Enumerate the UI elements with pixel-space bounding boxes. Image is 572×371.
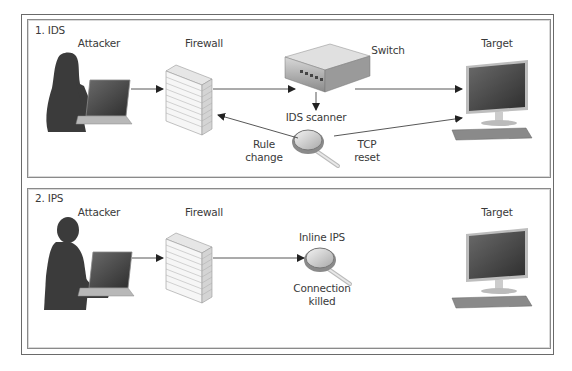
desktop-computer-icon — [452, 60, 532, 140]
inline-ips-label: Inline IPS — [299, 231, 345, 244]
diagram-graphics — [0, 0, 572, 371]
firewall-label: Firewall — [185, 37, 223, 50]
firewall-label: Firewall — [185, 206, 223, 219]
desktop-computer-icon — [452, 228, 532, 308]
ids-panel-title: 1. IDS — [35, 24, 65, 36]
firewall-brick-wall-icon — [166, 65, 212, 135]
magnifying-glass-icon — [304, 248, 350, 284]
rule-change-label-line1: Rule — [253, 138, 275, 151]
connection-killed-label-line2: killed — [309, 295, 336, 308]
switch-label: Switch — [371, 44, 405, 57]
attacker-male-laptop-icon — [44, 217, 134, 310]
target-label: Target — [481, 206, 512, 219]
attacker-label: Attacker — [78, 206, 120, 219]
connection-killed-label-line1: Connection — [293, 282, 350, 295]
firewall-brick-wall-icon — [166, 233, 212, 303]
magnifying-glass-icon — [292, 130, 338, 166]
rule-change-label-line2: change — [245, 151, 282, 164]
tcp-reset-label-line2: reset — [354, 151, 380, 164]
network-switch-icon — [285, 44, 370, 92]
target-label: Target — [481, 37, 512, 50]
attacker-female-laptop-icon — [46, 52, 132, 132]
ids-scanner-label: IDS scanner — [286, 111, 347, 124]
ips-panel-title: 2. IPS — [35, 192, 63, 204]
tcp-reset-label-line1: TCP — [358, 138, 377, 151]
attacker-label: Attacker — [78, 37, 120, 50]
